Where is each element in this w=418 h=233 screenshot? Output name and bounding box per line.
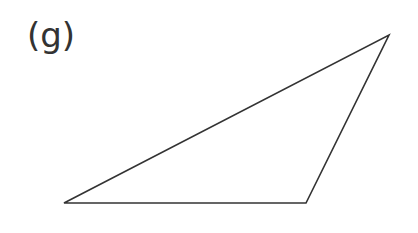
triangle-diagram	[0, 0, 418, 233]
obtuse-triangle	[64, 35, 389, 203]
